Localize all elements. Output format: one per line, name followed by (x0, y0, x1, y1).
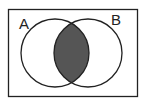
set-b-label: B (111, 11, 121, 28)
venn-diagram: A B (0, 0, 144, 104)
set-a-label: A (19, 15, 29, 32)
